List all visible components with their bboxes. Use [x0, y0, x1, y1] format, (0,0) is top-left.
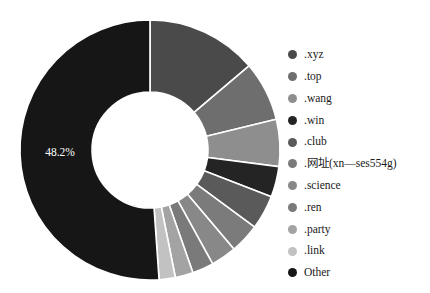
legend-item[interactable]: .网址(xn—ses554g): [288, 153, 430, 175]
legend-swatch-icon: [288, 72, 297, 81]
legend-item[interactable]: .top: [288, 66, 430, 88]
legend-item[interactable]: .club: [288, 131, 430, 153]
legend-swatch-icon: [288, 138, 297, 147]
legend-item-label: .wang: [304, 93, 332, 105]
donut-slice-labels: 48.2%: [45, 146, 75, 158]
legend-item-label: Other: [304, 267, 330, 279]
legend-item-label: .party: [304, 224, 331, 236]
legend-item-label: .ren: [304, 202, 322, 214]
legend-item-label: .link: [304, 245, 325, 257]
legend-item-label: .club: [304, 136, 327, 148]
legend-swatch-icon: [288, 247, 297, 256]
legend-swatch-icon: [288, 50, 297, 59]
legend-swatch-icon: [288, 203, 297, 212]
legend-swatch-icon: [288, 159, 297, 168]
donut-chart-svg: 48.2%: [0, 0, 290, 293]
legend-swatch-icon: [288, 181, 297, 190]
legend-swatch-icon: [288, 94, 297, 103]
legend-swatch-icon: [288, 116, 297, 125]
legend-item-label: .网址(xn—ses554g): [304, 158, 397, 170]
legend-item-label: .science: [304, 180, 341, 192]
legend-item[interactable]: .ren: [288, 197, 430, 219]
donut-chart: 48.2%: [0, 0, 290, 293]
legend-item[interactable]: .party: [288, 218, 430, 240]
chart-figure: 48.2% .xyz.top.wang.win.club.网址(xn—ses55…: [0, 0, 430, 293]
legend-item[interactable]: .xyz: [288, 44, 430, 66]
legend-item-label: .xyz: [304, 49, 323, 61]
legend-item[interactable]: .science: [288, 175, 430, 197]
chart-legend: .xyz.top.wang.win.club.网址(xn—ses554g).sc…: [288, 44, 430, 284]
legend-item[interactable]: Other: [288, 262, 430, 284]
legend-swatch-icon: [288, 225, 297, 234]
legend-item-label: .win: [304, 115, 324, 127]
legend-item[interactable]: .wang: [288, 88, 430, 110]
legend-item-label: .top: [304, 71, 322, 83]
legend-item[interactable]: .link: [288, 240, 430, 262]
donut-slice[interactable]: [20, 20, 159, 280]
slice-percent-label: 48.2%: [45, 146, 75, 158]
legend-swatch-icon: [288, 268, 297, 277]
legend-item[interactable]: .win: [288, 109, 430, 131]
